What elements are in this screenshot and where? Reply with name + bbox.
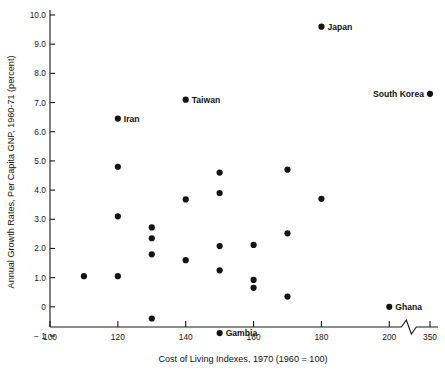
data-point-labeled: [217, 330, 223, 336]
x-tick-label: 120: [111, 332, 125, 342]
data-point: [183, 257, 189, 263]
data-point: [250, 242, 256, 248]
data-point: [115, 273, 121, 279]
plot-canvas: 10.09.08.07.06.05.04.03.02.01.00− 110012…: [0, 0, 445, 371]
data-point: [149, 224, 155, 230]
data-point-labeled: [427, 91, 433, 97]
scatter-plot-figure: 10.09.08.07.06.05.04.03.02.01.00− 110012…: [0, 0, 445, 371]
y-tick-label: 10.0: [30, 10, 47, 20]
data-points-group: JapanSouth KoreaTaiwanIranGhanaGambia: [81, 22, 433, 338]
data-point: [217, 169, 223, 175]
data-point: [250, 285, 256, 291]
y-tick-label: 8.0: [34, 68, 46, 78]
y-axis-title: Annual Growth Rates, Per Capita GNP, 196…: [6, 56, 16, 289]
data-point: [81, 273, 87, 279]
ticks-group: 10.09.08.07.06.05.04.03.02.01.00− 110012…: [30, 10, 438, 342]
x-axis-title: Cost of Living Indexes, 1970 (1960 = 100…: [158, 354, 327, 364]
data-point-label: Iran: [124, 114, 140, 124]
y-tick-label: 2.0: [34, 243, 46, 253]
data-point-label: Taiwan: [192, 95, 221, 105]
y-tick-label: 4.0: [34, 185, 46, 195]
data-point: [284, 230, 290, 236]
data-point-labeled: [115, 115, 121, 121]
y-tick-label: 6.0: [34, 127, 46, 137]
data-point-label: Ghana: [395, 302, 422, 312]
data-point-label: South Korea: [373, 89, 424, 99]
data-point: [149, 235, 155, 241]
y-tick-label: 0: [41, 302, 46, 312]
x-tick-label: 140: [179, 332, 193, 342]
data-point: [115, 164, 121, 170]
x-tick-label: 180: [314, 332, 328, 342]
data-point-labeled: [183, 97, 189, 103]
data-point: [183, 196, 189, 202]
data-point-labeled: [318, 24, 324, 30]
y-tick-label: 3.0: [34, 214, 46, 224]
x-tick-label: 200: [382, 332, 396, 342]
data-point: [284, 167, 290, 173]
data-point-labeled: [386, 304, 392, 310]
x-tick-label: 100: [43, 332, 57, 342]
y-tick-label: 9.0: [34, 39, 46, 49]
data-point: [217, 267, 223, 273]
y-tick-label: 1.0: [34, 273, 46, 283]
data-point: [318, 196, 324, 202]
data-point-label: Gambia: [226, 328, 258, 338]
x-tick-label: 350: [423, 332, 437, 342]
data-point: [217, 190, 223, 196]
data-point: [250, 277, 256, 283]
y-tick-label: 7.0: [34, 98, 46, 108]
y-tick-label: 5.0: [34, 156, 46, 166]
axes-group: [50, 10, 438, 334]
data-point-label: Japan: [327, 22, 352, 32]
data-point: [115, 213, 121, 219]
data-point: [149, 251, 155, 257]
data-point: [217, 243, 223, 249]
data-point: [149, 315, 155, 321]
data-point: [284, 294, 290, 300]
